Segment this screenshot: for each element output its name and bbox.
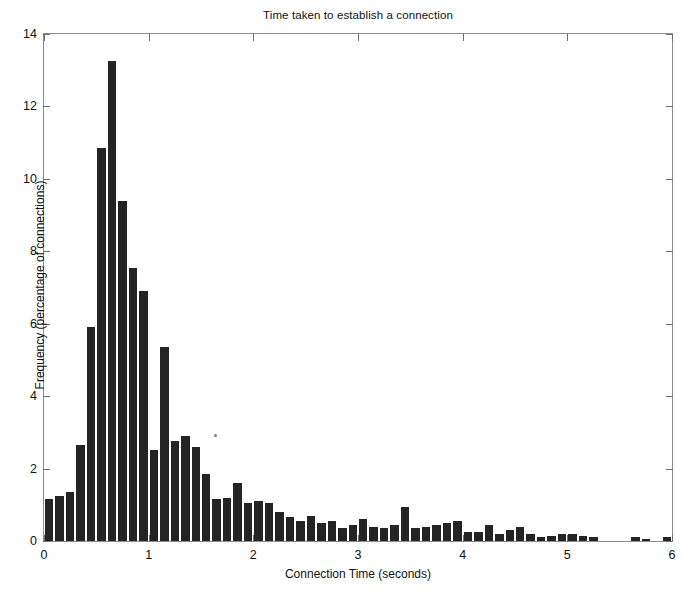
histogram-bar	[525, 534, 535, 541]
x-tick-label: 0	[24, 548, 64, 562]
x-tick-mark	[358, 535, 359, 542]
histogram-bar	[536, 537, 546, 541]
histogram-bar	[191, 447, 201, 541]
histogram-bar	[243, 503, 253, 541]
histogram-bar	[630, 537, 640, 541]
y-axis-label: Frequency (percentage of connections)	[33, 135, 47, 435]
histogram-bar	[567, 534, 577, 541]
x-tick-mark-top	[358, 34, 359, 41]
histogram-bar	[348, 525, 358, 541]
x-tick-mark-top	[567, 34, 568, 41]
histogram-bar	[107, 61, 117, 541]
x-tick-mark-top	[672, 34, 673, 41]
x-axis-label: Connection Time (seconds)	[43, 567, 673, 582]
histogram-bar	[379, 528, 389, 541]
histogram-figure: Time taken to establish a connection 024…	[0, 0, 688, 594]
histogram-bar	[463, 532, 473, 541]
x-tick-mark-top	[253, 34, 254, 41]
bar-series	[43, 33, 673, 542]
x-tick-label: 5	[547, 548, 587, 562]
y-tick-mark-right	[666, 179, 673, 180]
histogram-bar	[222, 498, 232, 541]
histogram-bar	[431, 525, 441, 541]
histogram-bar	[337, 528, 347, 541]
y-tick-mark	[43, 469, 50, 470]
histogram-bar	[306, 516, 316, 541]
histogram-bar	[484, 525, 494, 541]
histogram-bar	[400, 507, 410, 541]
histogram-bar	[421, 527, 431, 541]
histogram-bar	[170, 441, 180, 541]
x-tick-mark	[567, 535, 568, 542]
histogram-bar	[358, 519, 368, 541]
y-tick-mark-right	[666, 251, 673, 252]
histogram-bar	[201, 474, 211, 541]
histogram-bar	[65, 492, 75, 541]
histogram-bar	[410, 528, 420, 541]
histogram-bar	[389, 525, 399, 541]
y-tick-label: 2	[30, 463, 37, 475]
chart-title: Time taken to establish a connection	[43, 8, 673, 22]
histogram-bar	[44, 499, 54, 541]
histogram-bar	[368, 527, 378, 541]
histogram-bar	[473, 532, 483, 541]
histogram-bar	[578, 536, 588, 541]
x-tick-label: 4	[443, 548, 483, 562]
histogram-bar	[557, 534, 567, 541]
y-tick-label: 12	[23, 100, 37, 112]
histogram-bar	[75, 445, 85, 541]
histogram-bar	[316, 523, 326, 541]
histogram-bar	[54, 496, 64, 541]
histogram-bar	[149, 450, 159, 541]
histogram-bar	[180, 436, 190, 541]
x-tick-label: 1	[129, 548, 169, 562]
x-tick-mark-top	[149, 34, 150, 41]
x-tick-mark-top	[44, 34, 45, 41]
y-tick-mark-right	[666, 106, 673, 107]
histogram-bar	[515, 527, 525, 541]
histogram-bar	[641, 539, 651, 541]
histogram-bar	[505, 530, 515, 541]
y-tick-mark-right	[666, 324, 673, 325]
histogram-bar	[442, 523, 452, 541]
x-tick-label: 2	[233, 548, 273, 562]
histogram-bar	[494, 534, 504, 541]
x-tick-mark	[253, 535, 254, 542]
histogram-bar	[588, 537, 598, 541]
y-tick-label: 0	[30, 535, 37, 547]
histogram-bar	[327, 521, 337, 541]
y-tick-mark	[43, 106, 50, 107]
y-tick-mark-right	[666, 396, 673, 397]
histogram-bar	[128, 268, 138, 541]
x-tick-mark-top	[463, 34, 464, 41]
histogram-bar	[96, 148, 106, 541]
y-tick-mark-right	[666, 469, 673, 470]
histogram-bar	[159, 347, 169, 541]
histogram-bar	[274, 512, 284, 541]
x-tick-mark	[672, 535, 673, 542]
histogram-bar	[546, 536, 556, 541]
x-tick-mark	[149, 535, 150, 542]
histogram-bar	[285, 517, 295, 541]
plot-area	[43, 33, 673, 542]
x-tick-mark	[44, 535, 45, 542]
x-tick-mark	[463, 535, 464, 542]
histogram-bar	[264, 503, 274, 541]
histogram-bar	[295, 521, 305, 541]
x-tick-label: 3	[338, 548, 378, 562]
histogram-bar	[452, 521, 462, 541]
histogram-bar	[232, 483, 242, 541]
histogram-bar	[211, 499, 221, 541]
histogram-bar	[253, 501, 263, 541]
histogram-bar	[117, 201, 127, 541]
x-tick-label: 6	[652, 548, 688, 562]
histogram-bar	[138, 291, 148, 541]
y-tick-label: 14	[23, 28, 37, 40]
histogram-bar	[86, 327, 96, 541]
scan-artifact-speck	[214, 434, 217, 437]
